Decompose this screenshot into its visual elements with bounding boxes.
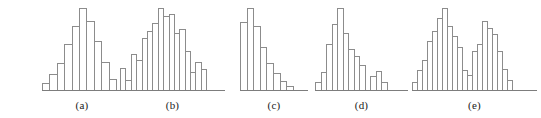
histogram-panel-d: (d) <box>315 0 408 118</box>
histogram-panel-c: (c) <box>240 0 308 118</box>
bar-group-e <box>412 8 537 90</box>
histogram-bar <box>381 82 388 90</box>
plot-area-e <box>412 8 537 90</box>
baseline-axis-c <box>240 90 308 91</box>
panel-caption-d: (d) <box>315 99 408 112</box>
bar-group-a <box>42 8 122 90</box>
baseline-axis-a <box>42 90 122 91</box>
plot-area-b <box>120 8 225 90</box>
histogram-panel-b: (b) <box>120 0 225 118</box>
panel-caption-c: (c) <box>240 99 308 112</box>
bar-group-c <box>240 8 308 90</box>
baseline-axis-e <box>412 90 537 91</box>
histogram-panel-a: (a) <box>42 0 122 118</box>
bar-group-b <box>120 8 225 90</box>
histogram-bar <box>109 79 117 90</box>
plot-area-a <box>42 8 122 90</box>
histogram-panel-e: (e) <box>412 0 537 118</box>
panel-caption-a: (a) <box>42 99 122 112</box>
panel-caption-b: (b) <box>120 99 225 112</box>
baseline-axis-d <box>315 90 408 91</box>
baseline-axis-b <box>120 90 225 91</box>
plot-area-d <box>315 8 408 90</box>
plot-area-c <box>240 8 308 90</box>
histogram-bar <box>201 69 207 90</box>
histogram-figure: (a) (b) (c) (d) (e) <box>0 0 541 118</box>
bar-group-d <box>315 8 408 90</box>
histogram-bar <box>359 65 366 90</box>
panel-caption-e: (e) <box>412 99 537 112</box>
histogram-bar <box>507 80 513 90</box>
